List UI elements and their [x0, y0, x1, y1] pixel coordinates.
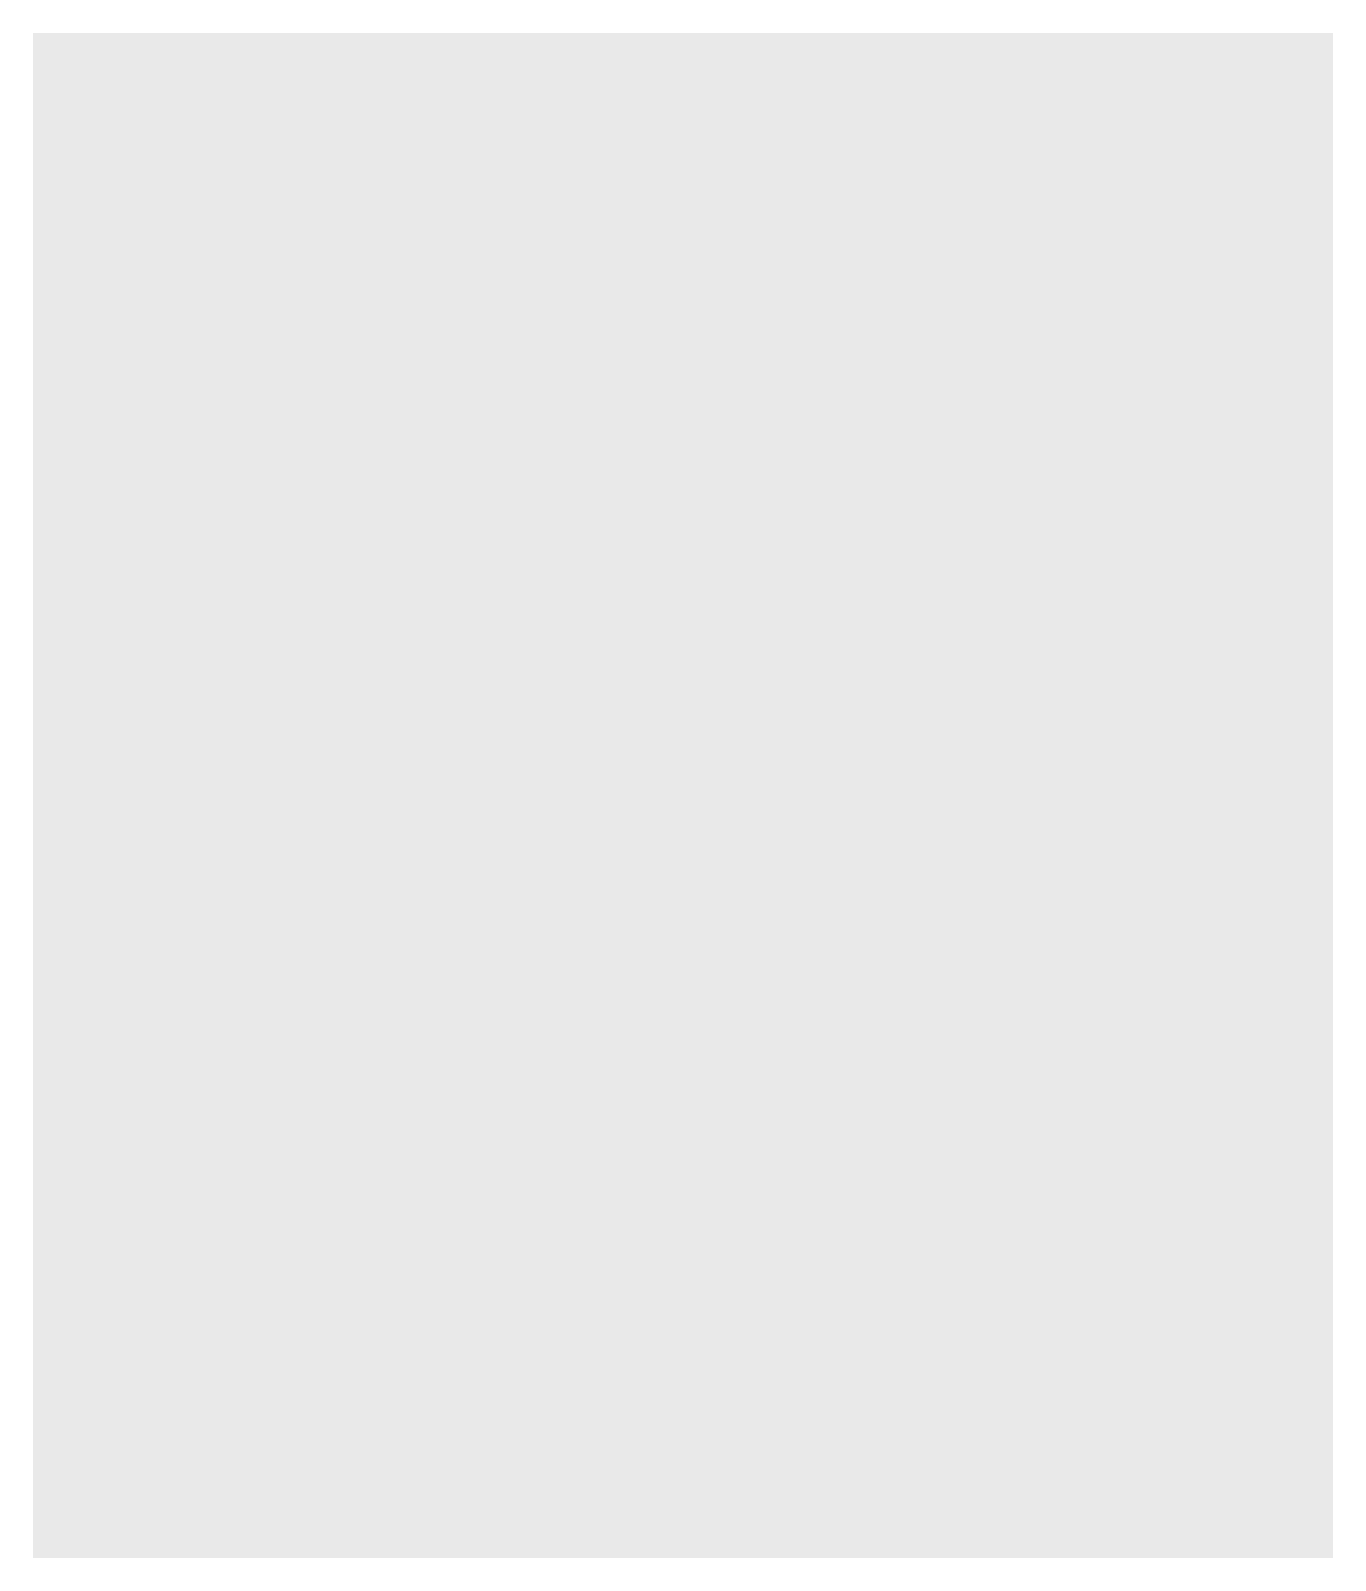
chart-sheet [33, 33, 1333, 1558]
